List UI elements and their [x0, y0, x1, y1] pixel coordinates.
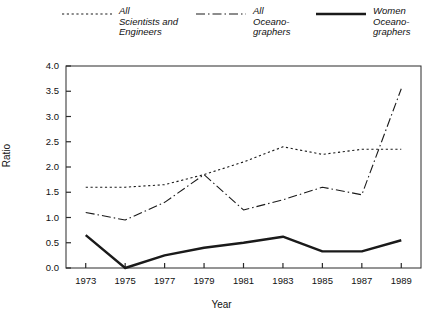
chart-figure: All Scientists and Engineers All Oceano-…	[0, 0, 443, 323]
data-series-0	[86, 147, 402, 187]
plot-area	[0, 0, 443, 323]
plot-frame	[66, 66, 421, 268]
data-series-1	[86, 89, 402, 220]
